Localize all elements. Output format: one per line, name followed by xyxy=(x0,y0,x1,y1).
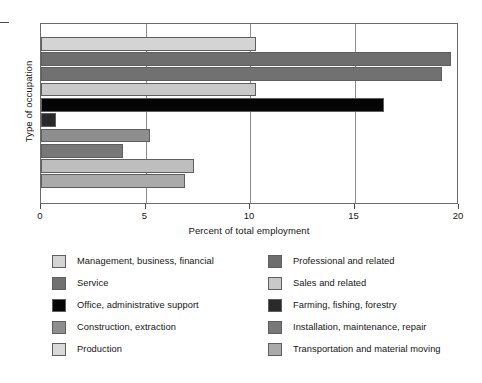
x-axis: 05101520 xyxy=(40,204,458,226)
x-axis-tick-label: 0 xyxy=(20,210,60,221)
x-axis-tick xyxy=(145,204,146,209)
legend-item-label: Sales and related xyxy=(293,278,366,288)
legend-item-label: Construction, extraction xyxy=(77,322,176,332)
legend-item-label: Service xyxy=(77,278,108,288)
y-axis-title: Type of occupation xyxy=(23,22,34,182)
legend-item[interactable]: Professional and related xyxy=(268,250,482,272)
plot-area xyxy=(40,23,458,204)
legend-item-label: Transportation and material moving xyxy=(293,344,441,354)
corner-tick-mark xyxy=(0,22,9,23)
bar xyxy=(41,37,256,51)
legend-column-right: Professional and relatedSales and relate… xyxy=(268,250,482,360)
legend-item-label: Production xyxy=(77,344,122,354)
legend-item-label: Farming, fishing, forestry xyxy=(293,300,397,310)
legend-item[interactable]: Management, business, financial xyxy=(52,250,267,272)
bar xyxy=(41,174,185,188)
x-axis-tick xyxy=(249,204,250,209)
bar-row xyxy=(41,129,457,143)
legend-swatch xyxy=(52,321,66,334)
bar-row xyxy=(41,52,457,66)
legend-swatch xyxy=(268,343,282,356)
x-axis-tick-label: 5 xyxy=(125,210,165,221)
bar xyxy=(41,67,442,81)
bar xyxy=(41,98,384,112)
legend-item[interactable]: Office, administrative support xyxy=(52,294,267,316)
bar xyxy=(41,159,194,173)
x-axis-tick xyxy=(354,204,355,209)
x-axis-tick-label: 10 xyxy=(229,210,269,221)
legend-item-label: Office, administrative support xyxy=(77,300,199,310)
bar-series xyxy=(41,24,457,203)
bar-row xyxy=(41,37,457,51)
x-axis-title: Percent of total employment xyxy=(40,225,458,236)
bar xyxy=(41,83,256,97)
bar xyxy=(41,52,451,66)
bar xyxy=(41,144,123,158)
legend-swatch xyxy=(52,299,66,312)
legend-item-label: Management, business, financial xyxy=(77,256,214,266)
bar-row xyxy=(41,174,457,188)
x-axis-tick xyxy=(458,204,459,209)
bar-row xyxy=(41,98,457,112)
legend-item[interactable]: Transportation and material moving xyxy=(268,338,482,360)
legend: Management, business, financialServiceOf… xyxy=(52,250,472,376)
bar xyxy=(41,113,56,127)
legend-swatch xyxy=(52,277,66,290)
bar-row xyxy=(41,67,457,81)
bar-row xyxy=(41,159,457,173)
legend-swatch xyxy=(52,343,66,356)
bar-row xyxy=(41,83,457,97)
bar xyxy=(41,129,150,143)
legend-item[interactable]: Installation, maintenance, repair xyxy=(268,316,482,338)
legend-swatch xyxy=(268,321,282,334)
legend-column-left: Management, business, financialServiceOf… xyxy=(52,250,267,360)
bar-row xyxy=(41,113,457,127)
legend-item[interactable]: Production xyxy=(52,338,267,360)
bar-row xyxy=(41,144,457,158)
x-axis-tick-label: 15 xyxy=(334,210,374,221)
legend-swatch xyxy=(268,277,282,290)
x-axis-tick-label: 20 xyxy=(438,210,478,221)
legend-item[interactable]: Service xyxy=(52,272,267,294)
x-axis-tick xyxy=(40,204,41,209)
legend-item-label: Installation, maintenance, repair xyxy=(293,322,426,332)
legend-item[interactable]: Construction, extraction xyxy=(52,316,267,338)
legend-swatch xyxy=(52,255,66,268)
legend-item[interactable]: Sales and related xyxy=(268,272,482,294)
legend-item[interactable]: Farming, fishing, forestry xyxy=(268,294,482,316)
legend-swatch xyxy=(268,299,282,312)
legend-swatch xyxy=(268,255,282,268)
legend-item-label: Professional and related xyxy=(293,256,394,266)
bar-chart-figure: Type of occupation 05101520 Percent of t… xyxy=(0,0,482,383)
